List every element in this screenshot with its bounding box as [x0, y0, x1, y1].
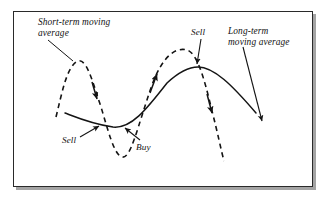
- short-term-direction-arrow-fall-icon: [207, 94, 212, 113]
- label-sell-bottom: Sell: [62, 135, 76, 146]
- label-short-term-moving-average: Short-term moving average: [38, 17, 134, 39]
- short-term-direction-arrow-up-icon: [150, 74, 157, 93]
- moving-average-crossover-figure: Short-term moving average Long-term movi…: [0, 0, 331, 203]
- series-long-term-moving-average: [65, 67, 256, 127]
- sell-top-leader-line: [197, 39, 201, 64]
- buy-leader-line: [125, 128, 140, 140]
- short-term-leader-line: [48, 40, 73, 61]
- label-long-term-moving-average: Long-term moving average: [228, 26, 320, 48]
- label-sell-top: Sell: [191, 27, 205, 38]
- sell-bottom-leader-line: [80, 126, 99, 137]
- label-buy: Buy: [136, 142, 151, 153]
